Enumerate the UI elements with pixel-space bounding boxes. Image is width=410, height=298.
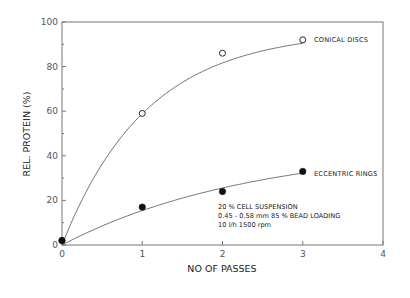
svg-text:0.45 - 0.58 mm 85 % BEAD LOAD: 0.45 - 0.58 mm 85 % BEAD LOADING (218, 212, 340, 220)
filled-circle-marker (300, 168, 306, 174)
y-axis-title: REL. PROTEIN (%) (21, 92, 32, 177)
x-axis-title: NO OF PASSES (187, 263, 256, 274)
filled-circle-marker (59, 237, 65, 243)
filled-circle-marker (219, 188, 225, 194)
y-tick-label: 100 (41, 17, 58, 27)
filled-circle-marker (139, 204, 145, 210)
x-tick-label: 2 (220, 249, 226, 259)
x-tick-label: 0 (59, 249, 65, 259)
conditions-annotation: 20 % CELL SUSPENSION 0.45 - 0.58 mm 85 %… (218, 203, 340, 229)
series-label-eccentric-rings: ECCENTRIC RINGS (314, 170, 377, 178)
x-tick-label: 1 (139, 249, 145, 259)
chart: 020406080100 01234 REL. PROTEIN (%) NO O… (0, 0, 410, 298)
x-axis-ticks: 01234 (59, 241, 386, 259)
y-tick-label: 60 (47, 106, 59, 116)
y-tick-label: 20 (47, 195, 59, 205)
x-tick-label: 4 (380, 249, 386, 259)
open-circle-marker (220, 50, 226, 56)
svg-text:10 l/h 1500 rpm: 10 l/h 1500 rpm (218, 221, 271, 229)
y-tick-label: 0 (52, 240, 58, 250)
open-circle-marker (300, 37, 306, 43)
y-tick-label: 80 (47, 62, 59, 72)
y-tick-label: 40 (47, 151, 59, 161)
x-tick-label: 3 (300, 249, 306, 259)
svg-text:20 % CELL SUSPENSION: 20 % CELL SUSPENSION (218, 203, 298, 211)
open-circle-marker (139, 110, 145, 116)
series-label-conical-discs: CONICAL DISCS (314, 36, 368, 44)
